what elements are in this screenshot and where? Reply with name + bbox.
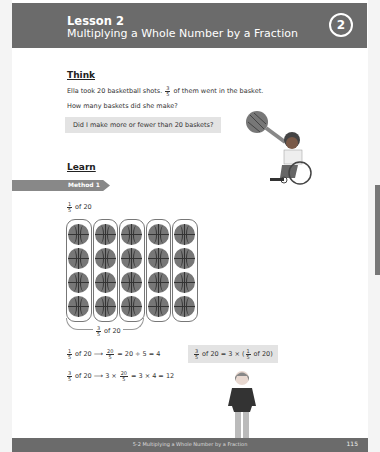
denominator: 5: [109, 355, 112, 360]
denominator: 5: [195, 355, 198, 360]
equation-text: of 20 ⟶: [75, 350, 103, 358]
basketball-icon: [95, 272, 116, 293]
equation-text: of 20 ⟶ 3 ×: [75, 372, 117, 380]
denominator: 5: [68, 208, 71, 213]
student-girl-illustration: [222, 368, 262, 440]
basketball-icon: [148, 296, 169, 317]
basketball-icon: [95, 248, 116, 269]
think-problem-line1: Ella took 20 basketball shots. 35 of the…: [67, 86, 263, 97]
basketball-icon: [174, 224, 195, 245]
label-text: of 20: [104, 327, 121, 335]
basketball-icon: [68, 296, 89, 317]
equation-1: 15 of 20 ⟶ 205 = 20 ÷ 5 = 4: [66, 349, 160, 360]
problem-text: Ella took 20 basketball shots.: [67, 87, 162, 95]
learn-heading: Learn: [67, 162, 96, 172]
equation-text: of 20 = 3 × (: [202, 350, 244, 358]
lesson-title: Multiplying a Whole Number by a Fraction: [67, 27, 298, 40]
equation-text: = 3 × 4 = 12: [131, 372, 174, 380]
bottom-fraction-label: 35 of 20: [93, 326, 123, 337]
basketball-icon: [95, 296, 116, 317]
denominator: 5: [68, 377, 71, 382]
fraction: 205: [106, 349, 114, 360]
top-fraction-label: 15 of 20: [66, 202, 92, 213]
fraction: 35: [194, 349, 199, 360]
denominator: 5: [68, 355, 71, 360]
group-column: [66, 219, 92, 322]
footer-lesson-text: 5-2 Multiplying a Whole Number by a Frac…: [12, 441, 368, 447]
fraction: 15: [246, 349, 251, 360]
basketball-icon: [148, 272, 169, 293]
fraction: 15: [67, 202, 72, 213]
basketball-grid: [66, 219, 198, 322]
page-footer: 5-2 Multiplying a Whole Number by a Frac…: [12, 438, 368, 452]
basketball-icon: [121, 272, 142, 293]
group-column: [119, 219, 145, 322]
basketball-icon: [121, 224, 142, 245]
fraction: 205: [120, 371, 128, 382]
think-problem-line2: How many baskets did she make?: [67, 102, 178, 110]
page-number: 115: [347, 440, 358, 447]
basketball-icon: [174, 296, 195, 317]
basketball-icon: [68, 224, 89, 245]
basketball-icon: [121, 296, 142, 317]
wheelchair-basketball-player-illustration: [240, 110, 320, 190]
equation-2: 35 of 20 ⟶ 3 × 205 = 3 × 4 = 12: [66, 371, 174, 382]
denominator: 5: [166, 92, 169, 97]
fraction: 35: [96, 326, 101, 337]
lesson-number-badge: 2: [329, 13, 353, 37]
speech-bubble: Did I make more or fewer than 20 baskets…: [65, 117, 221, 133]
method-banner: Method 1: [12, 180, 110, 191]
denominator: 5: [122, 377, 125, 382]
group-column: [172, 219, 198, 322]
denominator: 5: [97, 332, 100, 337]
label-text: of 20: [75, 203, 92, 211]
basketball-icon: [148, 224, 169, 245]
fraction: 35: [67, 371, 72, 382]
basketball-icon: [121, 248, 142, 269]
fraction: 15: [67, 349, 72, 360]
method-label: Method 1: [68, 181, 100, 188]
fraction: 35: [165, 86, 170, 97]
basketball-icon: [95, 224, 116, 245]
denominator: 5: [246, 355, 249, 360]
group-column: [146, 219, 172, 322]
basketball-icon: [68, 272, 89, 293]
lesson-label: Lesson 2: [67, 14, 124, 28]
chapter-side-tab: [375, 185, 380, 275]
think-heading: Think: [67, 70, 95, 80]
basketball-icon: [148, 248, 169, 269]
group-column: [93, 219, 119, 322]
speech-bubble-equation: 35 of 20 = 3 × (15 of 20): [188, 345, 278, 363]
problem-text: of them went in the basket.: [173, 87, 263, 95]
basketball-icon: [174, 272, 195, 293]
basketball-icon: [68, 248, 89, 269]
basketball-icon: [174, 248, 195, 269]
equation-text: of 20): [254, 350, 273, 358]
lesson-header: Lesson 2 Multiplying a Whole Number by a…: [12, 3, 367, 48]
equation-text: = 20 ÷ 5 = 4: [117, 350, 160, 358]
